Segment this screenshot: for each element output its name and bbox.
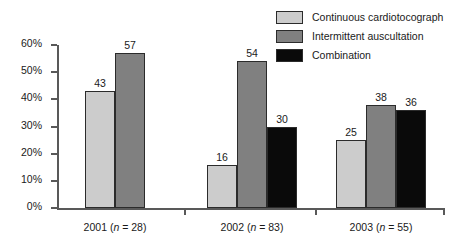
- x-axis-group-label: 2001 (n = 28): [84, 221, 147, 233]
- bar: 54: [237, 61, 267, 208]
- bar: 16: [207, 165, 237, 208]
- y-axis-tick-label: 40%: [21, 91, 42, 103]
- bar-value-label: 54: [246, 47, 258, 59]
- y-axis-tick-label: 10%: [21, 173, 42, 185]
- y-axis-tick-label: 20%: [21, 146, 42, 158]
- bar-value-label: 57: [124, 39, 136, 51]
- bar-chart-figure: Continuous cardiotocograph Intermittent …: [0, 0, 466, 246]
- bar: 38: [366, 105, 396, 208]
- y-axis-tick: 0%: [51, 207, 57, 209]
- bar: 43: [85, 91, 115, 208]
- y-axis-tick: 10%: [51, 180, 57, 182]
- bar: 25: [336, 140, 366, 208]
- y-axis-line: [57, 45, 59, 208]
- y-axis-tick-label: 0%: [27, 200, 42, 212]
- bar-value-label: 30: [276, 113, 288, 125]
- y-axis-tick: 60%: [51, 44, 57, 46]
- x-axis-end-tick: [443, 208, 445, 215]
- y-axis-tick: 30%: [51, 126, 57, 128]
- x-axis-group-separator-tick: [184, 208, 186, 215]
- legend-label-intermittent-auscultation: Intermittent auscultation: [312, 30, 423, 43]
- y-axis-tick: 20%: [51, 153, 57, 155]
- bar-value-label: 38: [375, 91, 387, 103]
- legend-label-continuous-cardiotocograph: Continuous cardiotocograph: [312, 11, 443, 24]
- x-axis-group-separator-tick: [315, 208, 317, 215]
- x-axis-group-label: 2003 (n = 55): [350, 221, 413, 233]
- y-axis-tick: 40%: [51, 98, 57, 100]
- bar: 30: [267, 127, 297, 209]
- legend-item-intermittent-auscultation: Intermittent auscultation: [276, 30, 443, 43]
- bar-value-label: 43: [94, 77, 106, 89]
- y-axis-tick-label: 50%: [21, 64, 42, 76]
- bar-value-label: 36: [405, 96, 417, 108]
- y-axis-tick-label: 30%: [21, 119, 42, 131]
- legend-swatch-intermittent-auscultation: [276, 30, 303, 43]
- legend-item-continuous-cardiotocograph: Continuous cardiotocograph: [276, 11, 443, 24]
- legend-swatch-continuous-cardiotocograph: [276, 11, 303, 24]
- bar: 57: [115, 53, 145, 208]
- y-axis-tick-label: 60%: [21, 37, 42, 49]
- x-axis-group-label: 2002 (n = 83): [221, 221, 284, 233]
- bar: 36: [396, 110, 426, 208]
- x-axis-line: [57, 208, 445, 210]
- y-axis-tick: 50%: [51, 71, 57, 73]
- bar-value-label: 16: [216, 151, 228, 163]
- plot-area: 60%50%40%30%20%10%0% 4357165430253836 20…: [57, 45, 445, 208]
- bar-value-label: 25: [345, 126, 357, 138]
